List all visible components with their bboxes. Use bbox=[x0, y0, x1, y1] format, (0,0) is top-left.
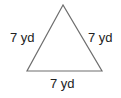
right-side-label: 7 yd bbox=[88, 30, 113, 45]
left-side-label: 7 yd bbox=[10, 30, 35, 45]
bottom-side-label: 7 yd bbox=[50, 76, 75, 91]
triangle-diagram: 7 yd 7 yd 7 yd bbox=[0, 0, 121, 98]
